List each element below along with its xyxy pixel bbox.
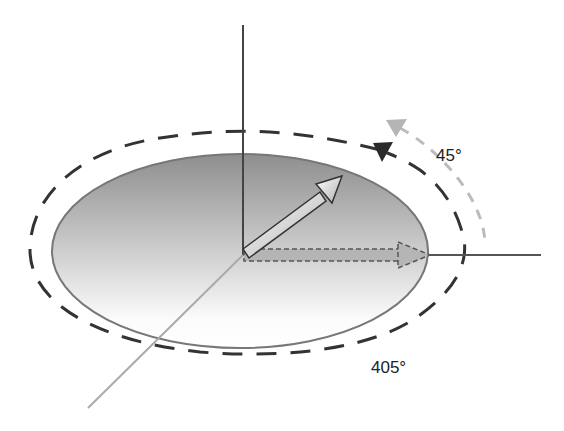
dark-start-triangle-marker [373, 142, 393, 162]
rotation-diagram [0, 0, 564, 431]
light-start-triangle-marker [386, 119, 407, 137]
angle-label-405: 405° [371, 358, 406, 378]
angle-label-45: 45° [436, 146, 462, 166]
